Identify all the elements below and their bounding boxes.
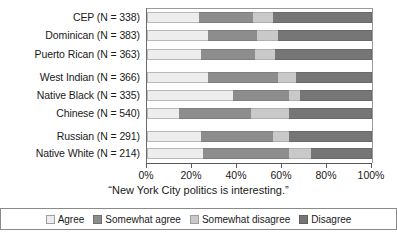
- bar-segment: [251, 108, 289, 119]
- bar-row: [147, 49, 372, 60]
- bar-row: [147, 30, 372, 41]
- category-label: Chinese (N = 540): [0, 108, 140, 119]
- x-axis-tick: [236, 164, 237, 168]
- x-axis-tick-label: 0%: [138, 169, 153, 181]
- bar-segment: [255, 49, 275, 60]
- bar-segment: [147, 49, 201, 60]
- bar-segment: [147, 108, 179, 119]
- bar-row: [147, 131, 372, 142]
- bar-segment: [201, 131, 273, 142]
- bar-segment: [289, 148, 312, 159]
- x-axis-tick: [281, 164, 282, 168]
- legend-item: Somewhat agree: [93, 214, 181, 225]
- x-axis-tick-label: 60%: [270, 169, 291, 181]
- legend-swatch-icon: [299, 215, 308, 224]
- x-axis-tick: [326, 164, 327, 168]
- x-axis-tick: [191, 164, 192, 168]
- bar-segment: [203, 148, 289, 159]
- x-axis-tick: [146, 164, 147, 168]
- category-label: Russian (N = 291): [0, 131, 140, 142]
- bar-segment: [296, 72, 373, 83]
- x-axis-tick-label: 100%: [358, 169, 385, 181]
- legend-item: Agree: [46, 214, 85, 225]
- x-axis-tick-label: 40%: [225, 169, 246, 181]
- x-axis-tick: [371, 164, 372, 168]
- bar-segment: [147, 131, 201, 142]
- bar-segment: [147, 30, 208, 41]
- legend-item: Somewhat disagree: [190, 214, 290, 225]
- bar-segment: [147, 90, 233, 101]
- bar-row: [147, 108, 372, 119]
- category-label: West Indian (N = 366): [0, 72, 140, 83]
- bar-segment: [289, 90, 300, 101]
- bar-segment: [147, 12, 199, 23]
- category-label: Native Black (N = 335): [0, 90, 140, 101]
- bar-row: [147, 12, 372, 23]
- bar-row: [147, 72, 372, 83]
- bar-segment: [289, 108, 372, 119]
- bar-segment: [147, 148, 203, 159]
- legend-label: Somewhat agree: [105, 214, 181, 225]
- bar-segment: [179, 108, 251, 119]
- legend-swatch-icon: [93, 215, 102, 224]
- bar-segment: [199, 12, 253, 23]
- x-axis-tick-label: 20%: [180, 169, 201, 181]
- legend-label: Somewhat disagree: [202, 214, 290, 225]
- bar-row: [147, 148, 372, 159]
- category-label: Dominican (N = 383): [0, 30, 140, 41]
- x-axis-ticks: [146, 164, 372, 168]
- legend-swatch-icon: [190, 215, 199, 224]
- legend-item: Disagree: [299, 214, 351, 225]
- x-axis-label: “New York City politics is interesting.”: [0, 184, 397, 197]
- bar-segment: [275, 49, 372, 60]
- bar-row: [147, 90, 372, 101]
- bar-segment: [311, 148, 372, 159]
- x-axis-tick-label: 80%: [315, 169, 336, 181]
- plot-area: [146, 8, 373, 163]
- legend-label: Agree: [58, 214, 85, 225]
- bar-segment: [233, 90, 289, 101]
- category-label: Puerto Rican (N = 363): [0, 49, 140, 60]
- bar-segment: [253, 12, 273, 23]
- bar-segment: [208, 30, 258, 41]
- bar-segment: [289, 131, 372, 142]
- bar-segment: [278, 30, 373, 41]
- bar-segment: [278, 72, 296, 83]
- bar-segment: [201, 49, 255, 60]
- bar-segment: [147, 72, 208, 83]
- y-axis-category-labels: CEP (N = 338)Dominican (N = 383)Puerto R…: [0, 8, 140, 163]
- stacked-bar-chart: CEP (N = 338)Dominican (N = 383)Puerto R…: [0, 0, 397, 234]
- legend-label: Disagree: [311, 214, 351, 225]
- bar-segment: [208, 72, 278, 83]
- chart-legend: AgreeSomewhat agreeSomewhat disagreeDisa…: [0, 208, 397, 230]
- category-label: CEP (N = 338): [0, 12, 140, 23]
- bar-segment: [273, 131, 289, 142]
- bar-segment: [273, 12, 372, 23]
- x-axis-tick-labels: 0%20%40%60%80%100%: [0, 169, 397, 182]
- bar-segment: [257, 30, 277, 41]
- bar-segment: [300, 90, 372, 101]
- legend-swatch-icon: [46, 215, 55, 224]
- category-label: Native White (N = 214): [0, 148, 140, 159]
